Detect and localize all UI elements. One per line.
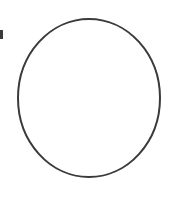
circle-outline-figure: [0, 0, 173, 201]
left-edge-fragment: [0, 30, 3, 39]
figure-canvas: [0, 0, 173, 201]
canvas-background: [0, 0, 173, 201]
